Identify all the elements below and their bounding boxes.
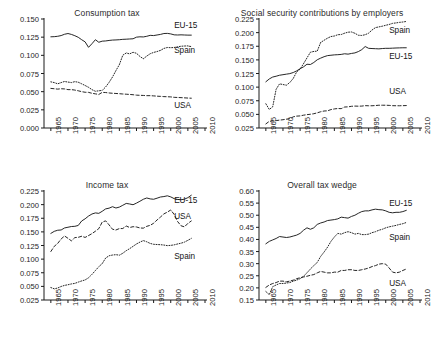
x-tick-label: 1985 (338, 289, 347, 306)
x-tick-label: 2000 (174, 117, 183, 134)
x-tick-label: 1975 (88, 117, 97, 134)
series-label-eu-15: EU-15 (389, 52, 412, 61)
x-tick-label: 2010 (423, 117, 432, 134)
y-tick-label: 0.025 (235, 124, 254, 133)
panel-consumption-tax: Consumption tax 0.0000.0250.0500.0750.10… (0, 0, 214, 171)
y-tick-label: 0.025 (20, 296, 39, 305)
series-label-spain: Spain (389, 233, 410, 242)
x-tick-label: 1990 (355, 289, 364, 306)
series-line-usa (51, 88, 191, 98)
x-tick-label: 1970 (71, 117, 80, 134)
x-tick-label: 2005 (191, 289, 200, 306)
series-label-eu-15: EU-15 (174, 196, 197, 205)
y-tick-label: 0.15 (239, 296, 254, 305)
x-tick-label: 1995 (372, 289, 381, 306)
y-tick-label: 0.100 (20, 255, 39, 264)
panel-social-security-contributions: Social security contributions by employe… (215, 0, 429, 171)
y-tick-label: 0.200 (235, 28, 254, 37)
series-label-spain: Spain (389, 26, 410, 35)
series-label-spain: Spain (174, 252, 195, 261)
y-tick-label: 0.225 (235, 15, 254, 24)
y-tick-label: 0.125 (235, 69, 254, 78)
y-tick-label: 0.20 (239, 283, 254, 292)
x-tick-label: 2010 (423, 289, 432, 306)
series-line-spain (266, 222, 406, 294)
x-tick-label: 2005 (406, 117, 415, 134)
y-tick-label: 0.100 (20, 51, 39, 60)
x-tick-label: 1970 (71, 289, 80, 306)
series-line-spain (266, 21, 406, 109)
y-tick-label: 0.175 (235, 42, 254, 51)
x-tick-label: 1980 (320, 117, 329, 134)
x-tick-label: 1970 (286, 289, 295, 306)
y-tick-label: 0.200 (20, 200, 39, 209)
series-label-usa: USA (389, 279, 406, 288)
series-line-spain (51, 46, 191, 91)
y-tick-label: 0.000 (20, 124, 39, 133)
x-tick-label: 1965 (54, 289, 63, 306)
y-tick-label: 0.025 (20, 105, 39, 114)
x-tick-label: 1975 (303, 117, 312, 134)
x-tick-label: 1985 (338, 117, 347, 134)
y-tick-label: 0.050 (20, 282, 39, 291)
panel-overall-tax-wedge: Overall tax wedge 0.150.200.250.300.350.… (215, 172, 429, 343)
y-tick-label: 0.150 (20, 227, 39, 236)
x-tick-label: 1965 (269, 117, 278, 134)
y-tick-label: 0.60 (239, 187, 254, 196)
x-tick-label: 1995 (372, 117, 381, 134)
y-tick-label: 0.55 (239, 199, 254, 208)
x-tick-label: 2000 (389, 117, 398, 134)
y-tick-label: 0.050 (235, 110, 254, 119)
x-tick-label: 2000 (389, 289, 398, 306)
y-tick-label: 0.35 (239, 247, 254, 256)
x-tick-label: 1990 (140, 117, 149, 134)
series-label-usa: USA (389, 87, 406, 96)
y-tick-label: 0.150 (235, 55, 254, 64)
y-tick-label: 0.075 (235, 96, 254, 105)
x-tick-label: 1980 (105, 289, 114, 306)
y-tick-label: 0.50 (239, 211, 254, 220)
x-tick-label: 1975 (303, 289, 312, 306)
x-tick-label: 1965 (54, 117, 63, 134)
series-label-eu-15: EU-15 (389, 199, 412, 208)
panel-income-tax: Income tax 0.0250.0500.0750.1000.1250.15… (0, 172, 214, 343)
x-tick-label: 1995 (157, 117, 166, 134)
series-line-eu-15 (266, 47, 406, 82)
x-tick-label: 1980 (320, 289, 329, 306)
series-line-eu-15 (266, 209, 406, 244)
series-label-eu-15: EU-15 (174, 21, 197, 30)
x-tick-label: 1965 (269, 289, 278, 306)
series-label-spain: Spain (174, 46, 195, 55)
y-tick-label: 0.125 (20, 33, 39, 42)
x-tick-label: 1990 (140, 289, 149, 306)
y-tick-label: 0.075 (20, 268, 39, 277)
series-label-usa: USA (174, 212, 191, 221)
x-tick-label: 1975 (88, 289, 97, 306)
series-line-eu-15 (51, 195, 191, 233)
x-tick-label: 1985 (123, 289, 132, 306)
x-tick-label: 2000 (174, 289, 183, 306)
x-tick-label: 2005 (406, 289, 415, 306)
x-tick-label: 2005 (191, 117, 200, 134)
series-line-spain (51, 238, 191, 288)
x-tick-label: 1990 (355, 117, 364, 134)
y-tick-label: 0.150 (20, 15, 39, 24)
y-tick-label: 0.050 (20, 87, 39, 96)
y-tick-label: 0.175 (20, 214, 39, 223)
y-tick-label: 0.225 (20, 187, 39, 196)
series-line-usa (266, 264, 406, 288)
y-tick-label: 0.45 (239, 223, 254, 232)
x-tick-label: 1985 (123, 117, 132, 134)
series-line-eu-15 (51, 33, 191, 47)
y-tick-label: 0.25 (239, 271, 254, 280)
x-tick-label: 1970 (286, 117, 295, 134)
y-tick-label: 0.40 (239, 235, 254, 244)
series-label-usa: USA (174, 101, 191, 110)
y-tick-label: 0.125 (20, 241, 39, 250)
y-tick-label: 0.30 (239, 259, 254, 268)
y-tick-label: 0.075 (20, 69, 39, 78)
x-tick-label: 1980 (105, 117, 114, 134)
y-tick-label: 0.100 (235, 83, 254, 92)
x-tick-label: 1995 (157, 289, 166, 306)
